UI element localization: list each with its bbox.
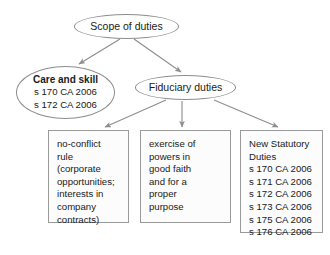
node-good-faith-proper-purpose-line-6: purpose [149, 201, 184, 214]
node-care-and-skill-line-1: Care and skill [33, 74, 98, 87]
edge-fiduciary-to-no-conflict-rule [105, 100, 166, 127]
node-new-statutory-duties-line-5: s 172 CA 2006 [249, 188, 312, 201]
diagram-canvas: Scope of duties Care and skill s 170 CA … [0, 0, 330, 255]
node-good-faith-proper-purpose[interactable]: exercise of powers in good faith and for… [140, 130, 231, 223]
node-fiduciary-duties-line-1: Fiduciary duties [149, 81, 223, 94]
node-no-conflict-rule-line-1: no-conflict [57, 138, 101, 151]
node-new-statutory-duties[interactable]: New Statutory Duties s 170 CA 2006 s 171… [240, 130, 323, 233]
node-no-conflict-rule-line-2: rule [57, 151, 73, 164]
node-fiduciary-duties[interactable]: Fiduciary duties [135, 75, 236, 100]
node-good-faith-proper-purpose-line-4: and for a [149, 176, 187, 189]
node-new-statutory-duties-line-4: s 171 CA 2006 [249, 176, 312, 189]
node-no-conflict-rule-line-3: (corporate [57, 163, 101, 176]
node-new-statutory-duties-line-1: New Statutory [249, 138, 309, 151]
node-good-faith-proper-purpose-line-2: powers in [149, 151, 190, 164]
node-no-conflict-rule-line-5: interests in [57, 188, 103, 201]
node-good-faith-proper-purpose-line-3: good faith [149, 163, 191, 176]
edge-fiduciary-to-new-statutory-duties [214, 100, 278, 127]
node-no-conflict-rule-line-7: contracts) [57, 214, 99, 227]
node-care-and-skill-line-2: s 170 CA 2006 [34, 86, 97, 99]
edge-scope-to-fiduciary-duties [134, 39, 181, 72]
node-care-and-skill[interactable]: Care and skill s 170 CA 2006 s 172 CA 20… [16, 66, 115, 119]
node-good-faith-proper-purpose-line-1: exercise of [149, 138, 195, 151]
node-scope-of-duties[interactable]: Scope of duties [74, 14, 179, 39]
node-new-statutory-duties-line-7: s 175 CA 2006 [249, 214, 312, 227]
node-scope-of-duties-line-1: Scope of duties [90, 20, 162, 33]
node-no-conflict-rule-line-6: company [57, 201, 96, 214]
node-new-statutory-duties-line-8: s 176 CA 2006 [249, 226, 312, 239]
node-no-conflict-rule[interactable]: no-conflict rule (corporate opportunitie… [48, 130, 129, 223]
node-good-faith-proper-purpose-line-5: proper [149, 188, 177, 201]
node-care-and-skill-line-3: s 172 CA 2006 [34, 99, 97, 112]
node-new-statutory-duties-line-3: s 170 CA 2006 [249, 163, 312, 176]
node-new-statutory-duties-line-2: Duties [249, 151, 276, 164]
node-no-conflict-rule-line-4: opportunities; [57, 176, 115, 189]
edge-scope-to-care-and-skill [79, 39, 120, 64]
node-new-statutory-duties-line-6: s 173 CA 2006 [249, 201, 312, 214]
